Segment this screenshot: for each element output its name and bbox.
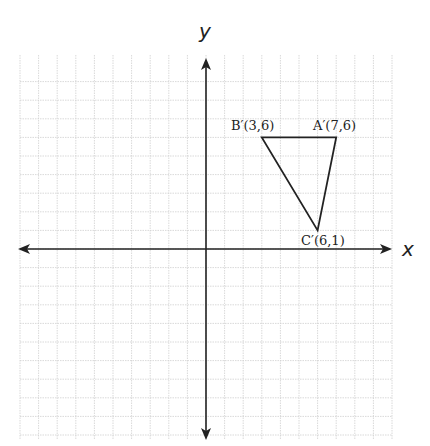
point-label-c-prime: C′(6,1) bbox=[301, 233, 345, 248]
x-axis-label: x bbox=[401, 237, 414, 261]
point-label-b-prime: B′(3,6) bbox=[231, 118, 274, 133]
y-axis-label: y bbox=[198, 19, 212, 43]
coordinate-plane: x y B′(3,6) A′(7,6) C′(6,1) bbox=[0, 0, 430, 446]
axes: x y bbox=[18, 19, 414, 440]
point-label-a-prime: A′(7,6) bbox=[312, 118, 356, 133]
